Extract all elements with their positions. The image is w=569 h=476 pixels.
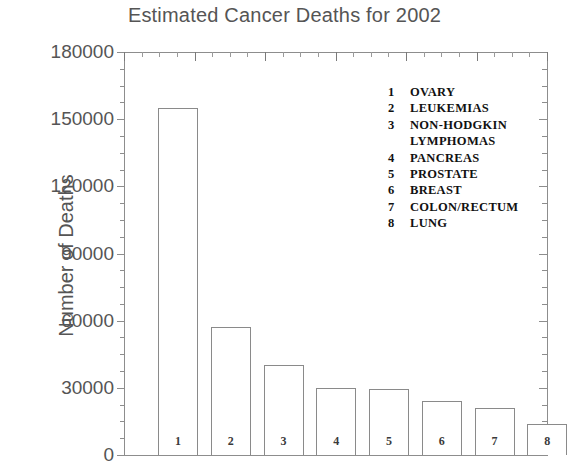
bar-label: 1 xyxy=(158,434,198,449)
legend-item: 8LUNG xyxy=(388,215,518,231)
bar-label: 4 xyxy=(316,434,356,449)
y-axis-tick-labels: 1800001500001200009000060000300000 xyxy=(0,52,114,456)
bar xyxy=(158,108,198,455)
bar-label: 6 xyxy=(422,434,462,449)
legend-label: COLON/RECTUM xyxy=(410,199,518,215)
legend-key: 4 xyxy=(388,150,410,166)
legend-key: 1 xyxy=(388,84,410,100)
bar-label: 2 xyxy=(211,434,251,449)
legend-item: 1OVARY xyxy=(388,84,518,100)
legend-label: OVARY xyxy=(410,84,518,100)
y-axis-right-line xyxy=(547,52,548,456)
y-tick-label: 90000 xyxy=(2,243,114,265)
bar-label: 8 xyxy=(527,434,567,449)
y-major-tick xyxy=(117,321,125,322)
legend-label: BREAST xyxy=(410,182,518,198)
legend-key: 6 xyxy=(388,182,410,198)
y-tick-label: 150000 xyxy=(2,108,114,130)
y-major-tick xyxy=(117,254,125,255)
legend-item: 5PROSTATE xyxy=(388,166,518,182)
y-tick-label: 30000 xyxy=(2,377,114,399)
chart-legend: 1OVARY2LEUKEMIAS3NON-HODGKINLYMPHOMAS4PA… xyxy=(388,84,518,232)
legend-item: 4PANCREAS xyxy=(388,150,518,166)
y-tick-label: 0 xyxy=(2,444,114,466)
legend-key: 3 xyxy=(388,117,410,133)
legend-label: NON-HODGKIN xyxy=(410,117,518,133)
x-major-tick xyxy=(547,52,548,61)
legend-key: 5 xyxy=(388,166,410,182)
y-major-tick xyxy=(117,455,125,456)
y-major-tick xyxy=(117,119,125,120)
cancer-deaths-bar-chart: Estimated Cancer Deaths for 2002 Number … xyxy=(0,0,569,476)
legend-key: 8 xyxy=(388,215,410,231)
bar-label: 3 xyxy=(264,434,304,449)
legend-label: PANCREAS xyxy=(410,150,518,166)
y-tick-label: 60000 xyxy=(2,310,114,332)
y-major-tick xyxy=(117,388,125,389)
legend-item: 6BREAST xyxy=(388,182,518,198)
legend-key: 2 xyxy=(388,100,410,116)
legend-label: LUNG xyxy=(410,215,518,231)
legend-label: PROSTATE xyxy=(410,166,518,182)
bar-label: 7 xyxy=(475,434,515,449)
legend-item: 7COLON/RECTUM xyxy=(388,199,518,215)
y-major-tick xyxy=(117,186,125,187)
y-major-tick-right xyxy=(539,455,547,456)
chart-title: Estimated Cancer Deaths for 2002 xyxy=(0,4,569,27)
x-axis-bottom-line xyxy=(124,455,548,456)
legend-label: LEUKEMIAS xyxy=(410,100,518,116)
y-tick-label: 120000 xyxy=(2,175,114,197)
y-tick-label: 180000 xyxy=(2,41,114,63)
bar-label: 5 xyxy=(369,434,409,449)
legend-item: 2LEUKEMIAS xyxy=(388,100,518,116)
legend-key: 7 xyxy=(388,199,410,215)
legend-label-continued: LYMPHOMAS xyxy=(388,133,518,149)
legend-item: 3NON-HODGKIN xyxy=(388,117,518,133)
